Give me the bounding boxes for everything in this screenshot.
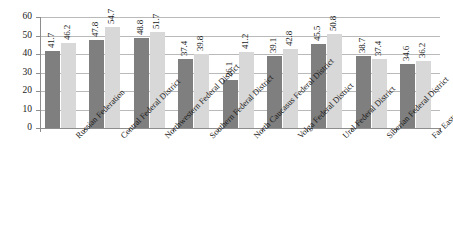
bar-value-label: 45.5: [313, 26, 322, 41]
x-axis-category-label: Russian Federation: [74, 134, 80, 140]
x-axis-category-label: Volga Federal District: [296, 134, 302, 140]
bar-value-label: 39.8: [196, 36, 205, 51]
y-tick-label: 40: [8, 49, 32, 59]
bar: [61, 43, 76, 128]
y-tick-label: 50: [8, 31, 32, 41]
bar-value-label: 34.6: [402, 46, 411, 61]
bar-value-label: 42.8: [285, 31, 294, 46]
y-tick-label: 60: [8, 12, 32, 22]
bar-value-label: 36.2: [418, 43, 427, 58]
bar-value-label: 41.7: [47, 33, 56, 48]
x-tick-mark: [40, 128, 41, 132]
bar-chart: 0102030405060 41.746.247.854.748.851.737…: [0, 0, 453, 235]
x-axis-line: [40, 128, 440, 129]
y-tick-label: 10: [8, 105, 32, 115]
x-axis-category-label: Central Federal District: [119, 134, 125, 140]
y-tick-label: 30: [8, 68, 32, 78]
bar-value-label: 47.8: [91, 22, 100, 37]
bar-value-label: 50.8: [329, 16, 338, 31]
bar-value-label: 54.7: [107, 9, 116, 24]
bar-value-label: 37.4: [180, 41, 189, 56]
x-axis-category-label: Ural Federal District: [341, 134, 347, 140]
bar-value-label: 39.1: [269, 38, 278, 53]
x-axis-category-label: Northwestern Federal District: [163, 134, 169, 140]
x-axis-category-label: Far Eastern Federal District: [430, 134, 436, 140]
bar: [327, 34, 342, 128]
x-axis-category-label: Southern Federal District: [208, 134, 214, 140]
bar-value-label: 38.7: [358, 38, 367, 53]
y-tick-label: 0: [8, 123, 32, 133]
x-axis-category-label: Siberian Federal District: [385, 134, 391, 140]
bar-value-label: 48.8: [136, 20, 145, 35]
y-tick-label: 20: [8, 86, 32, 96]
bar-group: 41.746.2: [45, 17, 76, 128]
bar-value-label: 46.2: [63, 25, 72, 40]
bar-value-label: 37.4: [374, 41, 383, 56]
bar-value-label: 51.7: [152, 14, 161, 29]
x-axis-category-label: North Caucasus Federal District: [252, 134, 258, 140]
bar-value-label: 41.2: [241, 34, 250, 49]
bar: [45, 51, 60, 128]
